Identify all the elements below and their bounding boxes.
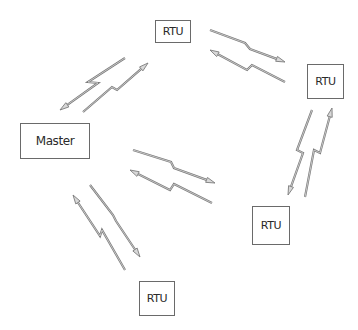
rtu-node-top: RTU	[155, 20, 191, 43]
link-master-rtu_bottom	[73, 185, 140, 270]
arrowhead-icon	[206, 177, 215, 183]
link-rtu_right-rtu_bottom_right	[288, 108, 332, 197]
link-rtu_top-rtu_right	[210, 30, 285, 82]
arrowhead-icon	[327, 108, 332, 117]
lightning-bolt-icon	[133, 150, 207, 180]
rtu-node-bottom: RTU	[139, 281, 175, 316]
arrowhead-icon	[210, 50, 219, 57]
arrowhead-icon	[288, 186, 293, 195]
network-diagram: Master RTU RTU RTU RTU	[0, 0, 358, 330]
arrowhead-icon	[276, 56, 285, 62]
link-master-rtu_top	[60, 58, 148, 112]
lightning-bolt-icon	[67, 58, 125, 105]
communication-links	[0, 0, 358, 330]
lightning-bolt-icon	[305, 117, 330, 197]
rtu-node-bottom-right: RTU	[252, 206, 290, 245]
arrowhead-icon	[130, 170, 139, 176]
link-master-rtu_bottom_right	[130, 150, 215, 203]
rtu-node-right: RTU	[307, 64, 344, 99]
lightning-bolt-icon	[83, 69, 141, 112]
master-node: Master	[20, 123, 90, 159]
